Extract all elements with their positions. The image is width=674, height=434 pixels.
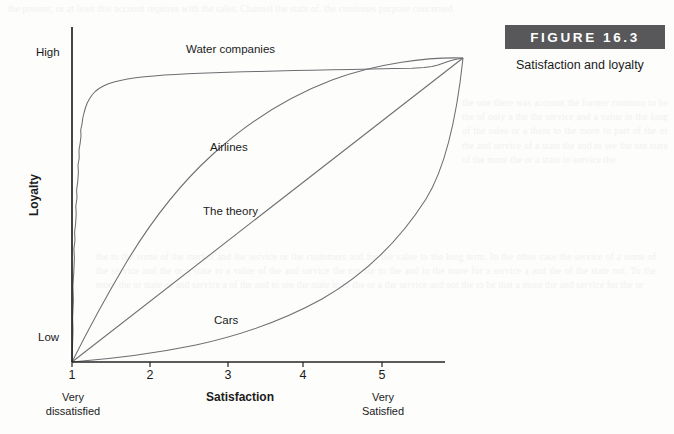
- x-axis-tick-label-2: 2: [147, 368, 154, 382]
- series-label-airlines: Airlines: [210, 141, 248, 153]
- x-axis-left-endcap-line2: dissatisfied: [46, 404, 100, 418]
- figure-caption: Satisfaction and loyalty: [516, 58, 644, 72]
- y-axis-title: Loyalty: [27, 174, 41, 216]
- chart-plot-area: High Low Loyalty 1 2 3 4 5 Satisfaction …: [0, 0, 500, 434]
- y-axis-high-label: High: [36, 46, 60, 58]
- x-axis-tick-label-1: 1: [69, 368, 76, 382]
- x-axis-tick-label-4: 4: [300, 368, 307, 382]
- x-axis-left-endcap: Very dissatisfied: [46, 390, 100, 418]
- x-axis-title: Satisfaction: [206, 390, 274, 404]
- x-axis-right-endcap-line1: Very: [362, 390, 404, 404]
- figure-number-label: FIGURE 16.3: [505, 25, 665, 49]
- x-axis-left-endcap-line1: Very: [46, 390, 100, 404]
- x-axis-right-endcap: Very Satisfied: [362, 390, 404, 418]
- series-label-water-companies: Water companies: [186, 43, 275, 55]
- y-axis-low-label: Low: [38, 331, 59, 343]
- x-axis-tick-label-3: 3: [225, 368, 232, 382]
- x-axis-tick-label-5: 5: [379, 368, 386, 382]
- series-label-the-theory: The theory: [203, 205, 258, 217]
- series-path-the-theory: [72, 58, 463, 362]
- figure-page: the present, or at least this account re…: [0, 0, 674, 434]
- x-axis-right-endcap-line2: Satisfied: [362, 404, 404, 418]
- series-label-cars: Cars: [214, 314, 238, 326]
- figure-number-banner: FIGURE 16.3: [505, 25, 665, 49]
